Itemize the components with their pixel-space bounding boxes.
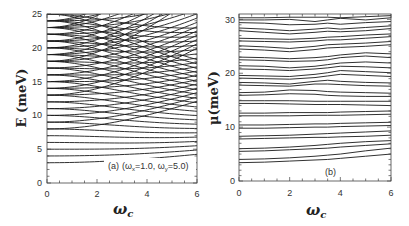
chemical-potential-curve xyxy=(239,56,391,61)
x-tick-label: 0 xyxy=(44,189,49,199)
panel-a-y-tick-labels: 0 5 10 15 20 25 xyxy=(32,9,42,188)
chemical-potential-curve xyxy=(239,141,391,149)
chemical-potential-curve xyxy=(239,94,391,97)
chemical-potential-curve xyxy=(239,41,391,48)
chemical-potential-curve xyxy=(239,154,391,163)
energy-level-curve xyxy=(47,0,197,14)
chemical-potential-curve xyxy=(239,114,391,116)
energy-level-curve xyxy=(47,129,197,133)
chemical-potential-curve xyxy=(239,111,391,113)
panel-a-energy-levels: 0 5 10 15 20 25 0 2 4 6 ωc E (meV) (a)(ω… xyxy=(14,0,200,219)
chemical-potential-curve xyxy=(239,126,391,129)
energy-level-curve xyxy=(47,146,197,149)
energy-level-curve xyxy=(47,1,197,21)
y-tick-label: 0 xyxy=(230,176,235,186)
panel-b-x-tick-labels: 0 2 4 6 xyxy=(236,188,393,198)
y-tick-label: 25 xyxy=(32,9,42,19)
panel-a-x-axis-title: ωc xyxy=(113,200,133,219)
chemical-potential-curve xyxy=(239,37,391,42)
panel-b-curves xyxy=(239,16,391,163)
chemical-potential-curve xyxy=(239,45,391,52)
figure: 0 5 10 15 20 25 0 2 4 6 ωc E (meV) (a)(ω… xyxy=(0,0,409,226)
chemical-potential-curve xyxy=(239,22,391,25)
energy-level-curve xyxy=(47,136,197,138)
panel-b-x-axis-title: ωc xyxy=(306,201,326,220)
y-tick-label: 10 xyxy=(32,110,42,120)
chemical-potential-curve xyxy=(239,18,391,22)
x-tick-label: 4 xyxy=(144,189,149,199)
chemical-potential-curve xyxy=(239,66,391,70)
chemical-potential-curve xyxy=(239,84,391,86)
energy-level-curve xyxy=(47,150,197,156)
chemical-potential-curve xyxy=(239,148,391,159)
x-tick-label: 4 xyxy=(338,188,343,198)
panel-b-y-tick-labels: 0 10 20 30 xyxy=(225,15,235,186)
x-tick-label: 6 xyxy=(194,189,199,199)
y-tick-label: 30 xyxy=(225,15,235,25)
panel-a-curves xyxy=(47,0,197,163)
y-tick-label: 0 xyxy=(37,178,42,188)
x-tick-label: 2 xyxy=(94,189,99,199)
chemical-potential-curve xyxy=(239,74,391,79)
energy-level-curve xyxy=(47,0,197,14)
chemical-potential-curve xyxy=(239,101,391,102)
y-tick-label: 20 xyxy=(32,43,42,53)
x-tick-label: 6 xyxy=(388,188,393,198)
chemical-potential-curve xyxy=(239,90,391,93)
chemical-potential-curve xyxy=(239,122,391,125)
energy-level-curve xyxy=(47,141,197,143)
panel-a-x-tick-labels: 0 2 4 6 xyxy=(44,189,199,199)
chemical-potential-curve xyxy=(239,26,391,31)
chemical-potential-curve xyxy=(239,103,391,105)
y-tick-label: 15 xyxy=(32,77,42,87)
panel-a-y-axis-title: E (meV) xyxy=(14,69,29,128)
y-tick-label: 5 xyxy=(37,144,42,154)
y-tick-label: 10 xyxy=(225,122,235,132)
chemical-potential-curve xyxy=(239,80,391,84)
y-tick-label: 20 xyxy=(225,68,235,78)
x-tick-label: 0 xyxy=(236,188,241,198)
panel-b-y-axis-title: μ(meV) xyxy=(206,71,221,125)
energy-level-curve xyxy=(47,102,197,116)
x-tick-label: 2 xyxy=(287,188,292,198)
chemical-potential-curve xyxy=(239,131,391,136)
panel-b-chemical-potential: 0 10 20 30 0 2 4 6 ωc μ(meV) (b) xyxy=(206,14,394,220)
energy-level-curve xyxy=(47,0,197,14)
panel-b-annotation: (b) xyxy=(325,167,336,177)
